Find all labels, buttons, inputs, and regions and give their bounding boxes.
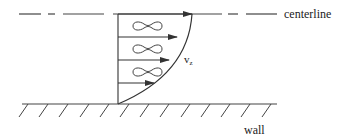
eddy-icon [133, 68, 162, 76]
velocity-profile-diagram: centerline vz wall [0, 0, 357, 140]
eddies [133, 22, 162, 76]
eddy-icon [133, 22, 162, 30]
velocity-label: vz [184, 53, 193, 67]
eddy-icon [133, 45, 162, 53]
velocity-profile-curve [118, 14, 192, 104]
velocity-arrows [118, 14, 192, 83]
wall-hatching [19, 104, 271, 117]
wall-label: wall [244, 123, 265, 137]
centerline-label: centerline [284, 7, 331, 21]
